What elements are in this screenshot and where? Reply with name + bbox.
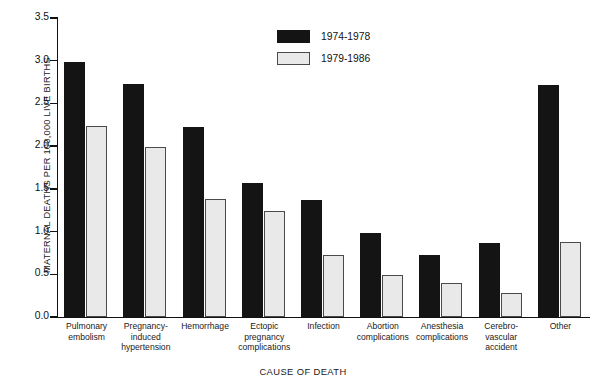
bar-1974-1978 <box>538 85 559 317</box>
bar-group <box>175 18 234 317</box>
legend-label-1974-1978: 1974-1978 <box>321 31 370 42</box>
legend-item: 1974-1978 <box>277 28 370 45</box>
y-tick-label: 1.0 <box>9 225 49 236</box>
x-category-label: Other <box>523 321 598 332</box>
x-axis-category-labels: PulmonaryembolismPregnancy-inducedhypert… <box>57 321 590 365</box>
x-axis-line <box>57 317 590 318</box>
legend-swatch-1974-1978 <box>277 30 310 43</box>
bar-1974-1978 <box>242 183 263 317</box>
bar-1974-1978 <box>419 255 440 317</box>
y-tick-label: 2.5 <box>9 96 49 107</box>
bar-chart: MATERNAL DEATHS PER 100,000 LIVE BIRTHS … <box>0 0 606 386</box>
bar-1979-1986 <box>205 199 226 317</box>
bar-1974-1978 <box>301 200 322 317</box>
bar-1979-1986 <box>264 211 285 317</box>
y-tick-label: 2.0 <box>9 139 49 150</box>
bar-group <box>116 18 175 317</box>
bar-1979-1986 <box>145 147 166 317</box>
y-tick-label: 3.5 <box>9 11 49 22</box>
x-axis-title: CAUSE OF DEATH <box>0 366 606 377</box>
bar-1974-1978 <box>479 243 500 317</box>
bar-1979-1986 <box>86 126 107 317</box>
y-tick-label: 3.0 <box>9 54 49 65</box>
y-tick-label: 1.5 <box>9 182 49 193</box>
y-tick-label: 0.5 <box>9 267 49 278</box>
legend-item: 1979-1986 <box>277 50 370 67</box>
bar-1974-1978 <box>64 62 85 317</box>
bar-1979-1986 <box>323 255 344 317</box>
bar-1979-1986 <box>441 283 462 317</box>
bar-1979-1986 <box>382 275 403 317</box>
bar-group <box>57 18 116 317</box>
bar-1974-1978 <box>123 84 144 317</box>
bar-group <box>531 18 590 317</box>
bar-1974-1978 <box>183 127 204 318</box>
legend-label-1979-1986: 1979-1986 <box>321 53 370 64</box>
bar-1979-1986 <box>560 242 581 317</box>
y-tick-label: 0.0 <box>9 310 49 321</box>
bar-1974-1978 <box>360 233 381 317</box>
legend-swatch-1979-1986 <box>277 52 310 65</box>
bar-group <box>412 18 471 317</box>
bar-group <box>472 18 531 317</box>
bar-1979-1986 <box>501 293 522 317</box>
chart-legend: 1974-1978 1979-1986 <box>277 28 370 72</box>
